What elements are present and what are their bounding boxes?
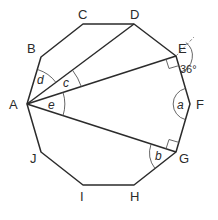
angle-label-c: c — [63, 76, 69, 90]
vertex-label-F: F — [196, 97, 204, 112]
vertex-label-H: H — [130, 189, 139, 204]
angle-label-a: a — [177, 98, 184, 112]
angle-arc-c — [73, 70, 82, 86]
diagonal-AE — [27, 56, 176, 104]
vertex-label-G: G — [179, 151, 189, 166]
vertex-label-B: B — [27, 41, 36, 56]
vertex-label-I: I — [80, 189, 84, 204]
diagram-canvas: A B C D E F G H I J d c e a b 36° — [0, 0, 218, 220]
angle-label-36-degrees: 36° — [180, 63, 197, 75]
vertex-label-D: D — [130, 7, 139, 22]
vertex-label-A: A — [9, 97, 18, 112]
vertex-label-E: E — [178, 41, 187, 56]
diagonal-AD — [27, 24, 134, 104]
vertex-label-C: C — [78, 7, 87, 22]
angle-label-b: b — [155, 149, 162, 163]
vertex-label-J: J — [30, 151, 37, 166]
angle-arc-e — [63, 92, 65, 115]
decagon-diagram: A B C D E F G H I J d c e a b 36° — [0, 0, 218, 220]
angle-label-e: e — [48, 98, 55, 112]
angle-label-d: d — [37, 73, 44, 87]
